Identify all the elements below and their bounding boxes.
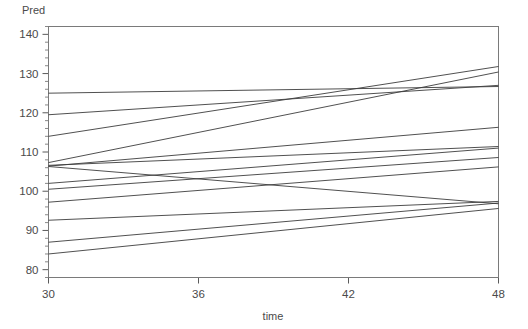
x-tick-label-30: 30 xyxy=(42,288,55,300)
series-line-subject-06 xyxy=(49,127,499,166)
series-lines xyxy=(49,67,499,254)
x-axis-title: time xyxy=(263,310,284,322)
y-axis-ticks xyxy=(43,34,49,269)
y-tick-label-130: 130 xyxy=(19,68,38,80)
plot-frame xyxy=(49,27,499,278)
y-axis-title: Pred xyxy=(22,4,45,16)
y-tick-label-120: 120 xyxy=(19,107,38,119)
chart-figure: Pred 8090100110120130140 30364248 time xyxy=(0,0,528,329)
x-tick-label-48: 48 xyxy=(492,288,505,300)
x-axis-tick-labels: 30364248 xyxy=(42,288,505,300)
x-tick-label-36: 36 xyxy=(192,288,205,300)
series-line-subject-03 xyxy=(49,67,499,137)
prediction-line-chart: Pred 8090100110120130140 30364248 time xyxy=(0,0,528,329)
series-line-subject-11 xyxy=(49,201,499,220)
y-tick-label-110: 110 xyxy=(20,146,38,158)
series-line-subject-08 xyxy=(49,148,499,183)
y-tick-label-100: 100 xyxy=(19,185,38,197)
x-tick-label-42: 42 xyxy=(342,288,355,300)
y-tick-label-80: 80 xyxy=(26,264,39,276)
series-line-subject-12 xyxy=(49,203,499,242)
y-axis-tick-labels: 8090100110120130140 xyxy=(19,28,38,275)
y-tick-label-140: 140 xyxy=(19,28,38,40)
y-tick-label-90: 90 xyxy=(26,224,39,236)
series-line-subject-13 xyxy=(49,208,499,253)
x-axis-ticks xyxy=(49,278,499,284)
